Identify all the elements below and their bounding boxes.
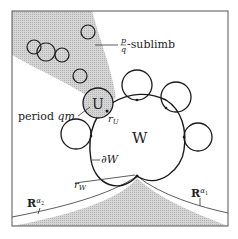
bulb-top-root bbox=[136, 99, 139, 102]
dW-label: ∂W bbox=[101, 153, 120, 166]
R-alpha2-label: Rα2 bbox=[27, 197, 44, 210]
R-alpha1-label: Rα1 bbox=[191, 187, 208, 200]
rW-label: rW bbox=[74, 179, 87, 192]
sublimb-numerator: p bbox=[121, 36, 126, 45]
bulb-left-root bbox=[90, 135, 93, 138]
sublimb-diagram: p q -sublimb period qm U rU W ∂W rW Rα2 … bbox=[0, 0, 238, 239]
bulb-right bbox=[184, 123, 212, 151]
bulb-left bbox=[61, 119, 91, 149]
bulb-top bbox=[122, 70, 152, 100]
sublimb-label: -sublimb bbox=[127, 38, 175, 51]
U-label: U bbox=[92, 96, 104, 112]
bulb-right-root bbox=[183, 136, 186, 139]
period-label: period qm bbox=[18, 110, 75, 123]
W-label: W bbox=[132, 129, 148, 147]
sublimb-denominator: q bbox=[121, 45, 126, 54]
rU-label: rU bbox=[108, 113, 120, 126]
bulb-top-right-root bbox=[165, 107, 168, 110]
root-point-rW bbox=[135, 174, 138, 177]
